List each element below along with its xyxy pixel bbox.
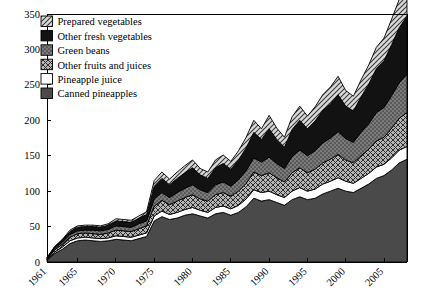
x-tick-label: 1980 <box>171 266 194 289</box>
legend-label: Other fresh vegetables <box>58 31 152 42</box>
y-tick-labels: 050100150200250300350 <box>24 9 40 268</box>
y-tick-label: 150 <box>24 150 40 161</box>
x-tick-label: 1985 <box>210 266 233 289</box>
legend-swatch <box>41 74 53 85</box>
x-tick-label: 1970 <box>95 266 118 289</box>
legend-label: Other fruits and juices <box>58 60 152 71</box>
y-tick-label: 250 <box>24 79 40 90</box>
legend-swatch <box>41 16 53 27</box>
y-tick-label: 100 <box>24 186 40 197</box>
x-tick-label: 1975 <box>133 266 156 289</box>
y-tick-label: 200 <box>24 115 40 126</box>
y-tick-label: 50 <box>30 221 41 232</box>
chart-legend: Prepared vegetablesOther fresh vegetable… <box>41 16 152 99</box>
legend-label: Pineapple juice <box>58 74 123 85</box>
legend-label: Green beans <box>58 45 110 56</box>
stacked-area-chart: 050100150200250300350 196119651970197519… <box>0 0 421 296</box>
x-tick-label: 1965 <box>56 266 79 289</box>
legend-label: Prepared vegetables <box>58 16 142 27</box>
legend-swatch <box>41 45 53 56</box>
x-tick-label: 2005 <box>363 266 386 289</box>
legend-label: Canned pineapples <box>58 88 138 99</box>
legend-swatch <box>41 88 53 99</box>
legend-swatch <box>41 59 53 69</box>
chart-canvas: 050100150200250300350 196119651970197519… <box>0 0 421 296</box>
x-tick-labels: 1961196519701975198019851990199520002005 <box>26 266 386 289</box>
x-tick-label: 1990 <box>248 266 271 289</box>
legend-swatch <box>41 30 53 41</box>
x-tick-label: 1995 <box>286 266 309 289</box>
x-tick-label: 1961 <box>26 266 49 289</box>
x-tick-label: 2000 <box>325 266 348 289</box>
y-tick-label: 300 <box>24 44 40 55</box>
y-tick-label: 350 <box>24 9 40 20</box>
